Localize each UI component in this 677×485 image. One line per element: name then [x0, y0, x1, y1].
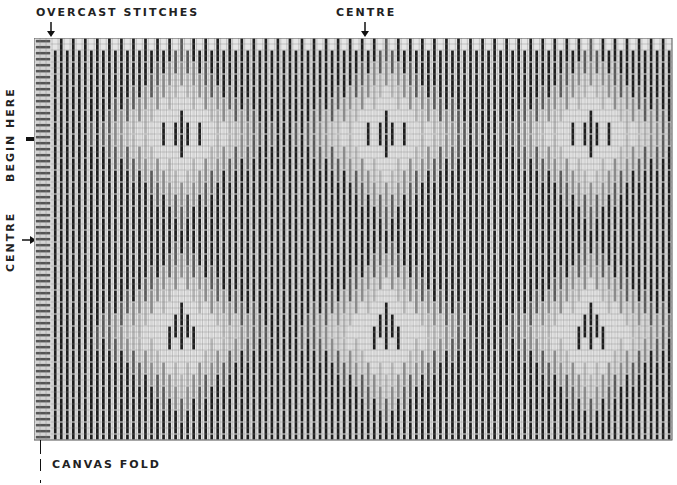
overcast-stitches-label: OVERCAST STITCHES — [36, 6, 199, 19]
arrow-down-icon — [360, 22, 370, 38]
centre-left-label: CENTRE — [4, 212, 17, 272]
bargello-stitch-chart — [34, 38, 674, 442]
arrow-down-icon — [46, 22, 56, 38]
centre-top-label: CENTRE — [336, 6, 396, 19]
canvas-fold-marker — [40, 459, 41, 471]
canvas-fold-tick — [40, 480, 41, 483]
begin-here-label: BEGIN HERE — [4, 87, 17, 182]
canvas-fold-label: CANVAS FOLD — [52, 458, 161, 471]
canvas-fold-line — [40, 440, 41, 454]
